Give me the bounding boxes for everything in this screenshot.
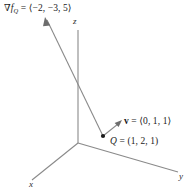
direction-vector-arrow (103, 120, 122, 136)
gradient-vector-shaft (47, 20, 103, 136)
diagram-canvas (0, 0, 194, 192)
point-q-symbol: Q (110, 136, 117, 146)
vector-diagram-figure: ∇fQ = ⟨−2, −3, 5⟩ v = ⟨0, 1, 1⟩ Q = (1, … (0, 0, 194, 192)
point-q-coordinates: = (1, 2, 1) (117, 136, 158, 146)
y-axis-label: y (179, 172, 183, 181)
point-q-label: Q = (1, 2, 1) (110, 137, 158, 147)
direction-vector-label: v = ⟨0, 1, 1⟩ (124, 117, 171, 127)
gradient-vector-arrow (43, 17, 103, 136)
coordinate-axes (32, 30, 178, 180)
gradient-value: = ⟨−2, −3, 5⟩ (18, 3, 71, 13)
gradient-vector-label: ∇fQ = ⟨−2, −3, 5⟩ (4, 4, 72, 15)
x-axis-label: x (29, 180, 33, 189)
gradient-vector-arrowhead (43, 17, 50, 26)
x-axis-line (32, 143, 78, 180)
direction-vector-shaft (103, 124, 118, 136)
z-axis-label: z (73, 17, 77, 26)
direction-vector-value: = ⟨0, 1, 1⟩ (129, 116, 171, 126)
y-axis-line (78, 143, 178, 172)
point-q-marker (101, 134, 105, 138)
